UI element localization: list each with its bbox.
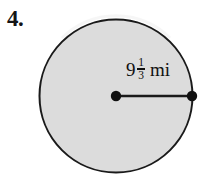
fraction-numerator: 1 — [137, 57, 145, 69]
circle-diagram-svg — [0, 0, 206, 183]
measurement-unit: mi — [150, 60, 170, 79]
radius-measurement-label: 9 1 3 mi — [126, 57, 170, 82]
measurement-whole-number: 9 — [126, 60, 136, 79]
radius-endpoint-dot — [187, 91, 197, 101]
geometry-figure-container: 4. 9 1 3 mi — [0, 0, 206, 183]
center-point-dot — [111, 91, 121, 101]
measurement-fraction: 1 3 — [137, 57, 145, 82]
fraction-denominator: 3 — [137, 70, 145, 82]
